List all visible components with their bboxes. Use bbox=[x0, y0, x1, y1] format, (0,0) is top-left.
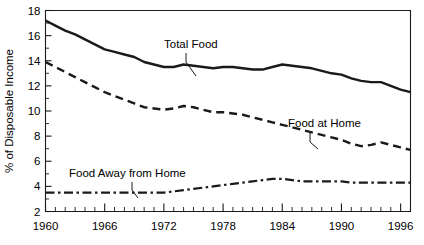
annotation-label-food-at-home: Food at Home bbox=[288, 117, 361, 129]
y-tick-label: 10 bbox=[28, 105, 41, 117]
series-line-total-food bbox=[46, 21, 411, 93]
x-tick-label: 1966 bbox=[92, 220, 118, 232]
series-line-food-at-home bbox=[46, 62, 411, 150]
chart-container: 24681012141618 1960196619721978198419901… bbox=[0, 0, 424, 245]
x-tick-label: 1990 bbox=[329, 220, 355, 232]
x-tick-label: 1960 bbox=[33, 220, 59, 232]
axis-frame bbox=[46, 11, 411, 212]
y-tick-label: 16 bbox=[28, 30, 41, 42]
y-axis-ticks bbox=[46, 11, 52, 212]
series-annotations: Total FoodFood at HomeFood Away from Hom… bbox=[69, 38, 361, 198]
y-tick-label: 18 bbox=[28, 5, 41, 17]
y-axis-tick-labels: 24681012141618 bbox=[28, 5, 41, 218]
plot-frame bbox=[46, 11, 411, 212]
y-axis-title: % of Disposable Income bbox=[3, 49, 15, 173]
y-tick-label: 4 bbox=[34, 180, 41, 192]
series-line-food-away-from-home bbox=[46, 179, 411, 193]
y-tick-label: 2 bbox=[34, 206, 40, 218]
annotation-leader-food-away-from-home bbox=[132, 182, 138, 198]
annotation-leader-food-at-home bbox=[310, 132, 318, 149]
x-tick-label: 1996 bbox=[388, 220, 414, 232]
x-tick-label: 1972 bbox=[151, 220, 177, 232]
annotation-label-total-food: Total Food bbox=[164, 38, 218, 50]
annotation-label-food-away-from-home: Food Away from Home bbox=[69, 167, 186, 179]
y-tick-label: 6 bbox=[34, 155, 40, 167]
x-axis-tick-labels: 1960196619721978198419901996 bbox=[33, 220, 414, 232]
x-tick-label: 1978 bbox=[210, 220, 236, 232]
y-tick-label: 14 bbox=[28, 55, 41, 67]
y-tick-label: 12 bbox=[28, 80, 41, 92]
x-tick-label: 1984 bbox=[269, 220, 295, 232]
line-chart: 24681012141618 1960196619721978198419901… bbox=[0, 0, 424, 245]
x-axis-ticks bbox=[46, 204, 411, 212]
y-tick-label: 8 bbox=[34, 130, 40, 142]
